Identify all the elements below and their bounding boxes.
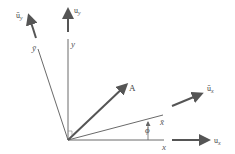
uy-label: uy [74,6,81,16]
ux-label: ux [214,136,221,146]
ubar-y-label: ūy [16,11,23,21]
vector-A [68,85,126,140]
angle-phi-label: ϕ [145,125,150,135]
y-axis-label: y [70,39,75,49]
x-bar-axis-label: x̄ [159,117,165,127]
ubar-x-label: ūx [207,84,214,94]
unit-vector-ubar-y [29,16,36,38]
origin-angle-mark [68,131,72,135]
unit-vector-ubar-x [172,94,201,106]
y-bar-axis [38,49,68,140]
vector-A-label: A [129,83,136,93]
x-axis-label: x [161,142,166,152]
coordinate-rotation-diagram: x y x̄ ȳ A ϕ ux uy ūx ūy [0,0,235,154]
y-bar-axis-label: ȳ [31,43,37,53]
